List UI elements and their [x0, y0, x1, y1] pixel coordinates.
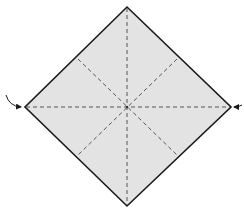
- left-fold-arrow-icon: [6, 95, 21, 107]
- right-fold-arrow-icon: [234, 105, 242, 107]
- center-point: [126, 106, 128, 108]
- origami-diagram: [0, 0, 244, 209]
